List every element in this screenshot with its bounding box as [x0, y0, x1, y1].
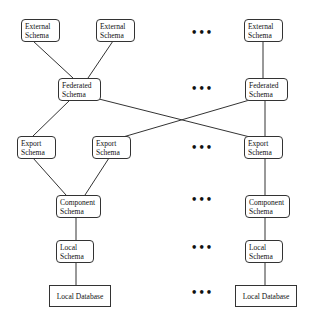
export-schema-2: Export Schema	[92, 136, 131, 159]
edge-layer	[0, 0, 310, 322]
export-schema-1: Export Schema	[17, 136, 56, 159]
local-database-n: Local Database	[235, 285, 297, 307]
node-label: Local Database	[57, 292, 103, 301]
external-schema-n: External Schema	[244, 19, 283, 42]
external-schema-1: External Schema	[21, 19, 60, 42]
node-label: Local	[60, 243, 90, 252]
node-label: External	[25, 22, 56, 31]
node-label: Schema	[248, 31, 279, 40]
edge-fed1-exp1	[33, 100, 70, 136]
node-label: Schema	[60, 252, 90, 261]
federated-schema-diagram: External Schema External Schema External…	[0, 0, 310, 322]
local-database-1: Local Database	[49, 285, 111, 307]
node-label: Schema	[248, 148, 279, 157]
node-label: Schema	[60, 207, 97, 216]
node-label: Schema	[249, 207, 286, 216]
node-label: Export	[21, 139, 52, 148]
node-label: Federated	[62, 81, 97, 90]
local-schema-n: Local Schema	[245, 240, 283, 263]
ellipsis-external-row: •••	[191, 29, 213, 37]
edge-exp2-comp1	[85, 158, 109, 195]
component-schema-n: Component Schema	[245, 195, 290, 218]
node-label: Schema	[100, 31, 131, 40]
edge-ext1-fed1	[33, 41, 73, 78]
edge-fed2-exp2	[123, 99, 253, 137]
federated-schema-1: Federated Schema	[58, 78, 101, 101]
node-label: Schema	[21, 148, 52, 157]
node-label: External	[248, 22, 279, 31]
node-label: Schema	[249, 90, 284, 99]
node-label: Schema	[249, 252, 279, 261]
ellipsis-local-schema-row: •••	[191, 244, 213, 252]
node-label: Schema	[96, 148, 127, 157]
node-label: Schema	[25, 31, 56, 40]
node-label: Export	[96, 139, 127, 148]
ellipsis-local-database-row: •••	[191, 289, 213, 297]
ellipsis-federated-row: •••	[191, 85, 213, 93]
ellipsis-component-row: •••	[191, 196, 213, 204]
ellipsis-export-row: •••	[191, 144, 213, 152]
node-label: Component	[249, 198, 286, 207]
external-schema-2: External Schema	[96, 19, 135, 42]
edge-exp1-comp1	[33, 158, 66, 195]
node-label: Federated	[249, 81, 284, 90]
local-schema-1: Local Schema	[56, 240, 94, 263]
node-label: Local	[249, 243, 279, 252]
node-label: Local Database	[243, 292, 289, 301]
edge-ext2-fed1	[88, 41, 113, 78]
node-label: Schema	[62, 90, 97, 99]
export-schema-n: Export Schema	[244, 136, 283, 159]
federated-schema-n: Federated Schema	[245, 78, 288, 101]
node-label: Component	[60, 198, 97, 207]
edge-fed1-exp3	[95, 98, 250, 137]
node-label: External	[100, 22, 131, 31]
component-schema-1: Component Schema	[56, 195, 101, 218]
node-label: Export	[248, 139, 279, 148]
